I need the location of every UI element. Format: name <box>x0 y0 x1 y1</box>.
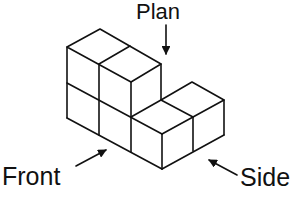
side-label: Side <box>240 163 290 191</box>
front-label: Front <box>2 162 60 190</box>
side-arrow <box>209 160 237 175</box>
plan-label: Plan <box>136 0 180 24</box>
up-left-arrow-icon <box>209 160 237 175</box>
cube-solid <box>67 29 224 169</box>
diagram-canvas: Plan Front Side <box>0 0 298 199</box>
isometric-cube-figure: Plan Front Side <box>0 0 298 199</box>
front-arrow <box>76 150 106 166</box>
up-right-arrow-icon <box>76 150 106 166</box>
